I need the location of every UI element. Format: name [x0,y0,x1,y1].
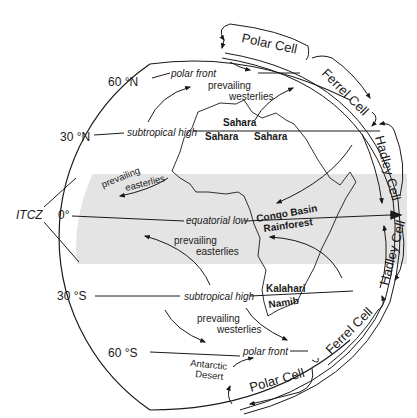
itcz-bracket [44,178,76,207]
label-kalahari: Kalahari [266,283,306,294]
label-easterlies-s-1: prevailing [174,235,217,246]
label-westerlies-s-2: westerlies [216,324,261,335]
label-namib: Namib [268,295,300,310]
subtropical-high-n-line [94,133,124,135]
label-equatorial-low: equatorial low [186,215,248,226]
label-sahara-2: Sahara [205,131,239,142]
label-antarctic-2: Desert [195,368,224,382]
label-polar-front-s: polar front [242,346,289,357]
label-polar-cell-s: Polar Cell [248,365,306,395]
polar-front-n-line [152,73,170,78]
circulation-diagram: 60 °N 30 °N ITCZ 0° 30 °S 60 °S polar fr… [0,0,417,418]
label-polar-cell-n: Polar Cell [240,30,298,56]
label-easterlies-s-2: easterlies [196,246,239,257]
label-30n: 30 °N [60,130,90,144]
label-itcz: ITCZ [16,208,43,222]
label-60n: 60 °N [108,75,138,89]
label-subtropical-high-n: subtropical high [127,127,197,138]
label-westerlies-s-1: prevailing [197,313,240,324]
label-polar-front-n: polar front [170,68,217,79]
label-sahara-1: Sahara [223,117,257,128]
label-subtropical-high-s: subtropical high [184,291,254,302]
westerlies-n-arrow [148,87,190,122]
label-sahara-3: Sahara [254,131,288,142]
label-60s: 60 °S [108,346,137,360]
label-westerlies-n-1: prevailing [208,80,251,91]
polar-front-s-line [150,352,240,356]
label-30s: 30 °S [57,289,86,303]
label-equator: 0° [58,208,70,222]
label-westerlies-n-2: westerlies [228,91,273,102]
